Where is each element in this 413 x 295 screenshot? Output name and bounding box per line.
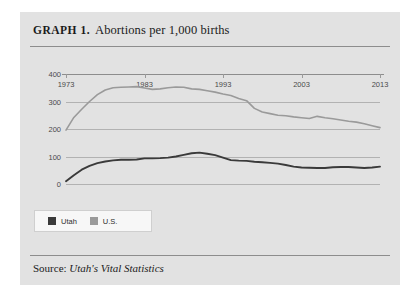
series-line-us [66,87,380,130]
figure-number: GRAPH 1. [33,24,90,36]
gridline [66,184,380,185]
figure-title-text: Abortions per 1,000 births [95,23,230,37]
x-axis-tick [380,74,381,78]
legend-swatch-icon [90,217,98,225]
figure-card: GRAPH 1.Abortions per 1,000 births 01002… [20,12,400,285]
page-title: GRAPH 1.Abortions per 1,000 births [33,23,230,38]
legend-item-utah: Utah [48,217,77,226]
chart-series-group [66,74,380,184]
y-axis-tick-label: 100 [48,152,61,161]
legend-item-us: U.S. [90,217,118,226]
source-publication: Utah's Vital Statistics [69,262,163,274]
legend-swatch-icon [48,217,56,225]
legend-label: Utah [61,217,77,226]
source-note: Source: Utah's Vital Statistics [33,262,164,274]
title-divider [30,46,390,47]
chart-axes: 0100200300400 19731983199320032013 [66,74,380,184]
y-axis-tick-label: 0 [57,180,61,189]
source-divider [30,255,390,256]
chart-legend: UtahU.S. [34,210,152,232]
y-axis-tick-label: 400 [48,70,61,79]
y-axis-tick-label: 300 [48,97,61,106]
y-axis-tick-label: 200 [48,125,61,134]
series-line-utah [66,153,380,182]
legend-label: U.S. [103,217,118,226]
chart-plot-area: 0100200300400 19731983199320032013 [44,60,392,190]
source-prefix: Source: [33,262,67,274]
